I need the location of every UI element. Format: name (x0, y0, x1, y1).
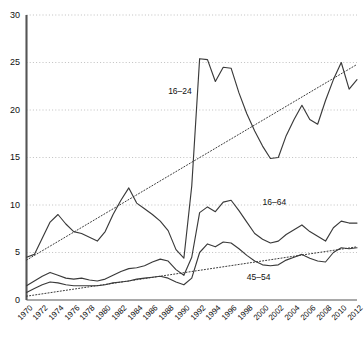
series-annotation-45-54: 45–54 (247, 272, 271, 282)
series-annotation-16-64: 16–64 (263, 197, 287, 207)
y-axis-tick-label-15: 15 (0, 153, 20, 162)
series-line-45-54 (27, 242, 358, 292)
y-axis-tick-label-25: 25 (0, 58, 20, 67)
y-axis-tick-label-10: 10 (0, 201, 20, 210)
series-annotation-16-24: 16–24 (168, 86, 192, 96)
y-axis-tick-label-0: 0 (0, 296, 20, 305)
chart-container: 0510152025301970197219741976197819801982… (0, 0, 364, 342)
y-axis-tick-label-5: 5 (0, 248, 20, 257)
series-line-16-64 (27, 200, 358, 286)
y-axis-tick-label-30: 30 (0, 11, 20, 20)
chart-plot-area (0, 0, 364, 342)
y-axis-tick-label-20: 20 (0, 106, 20, 115)
